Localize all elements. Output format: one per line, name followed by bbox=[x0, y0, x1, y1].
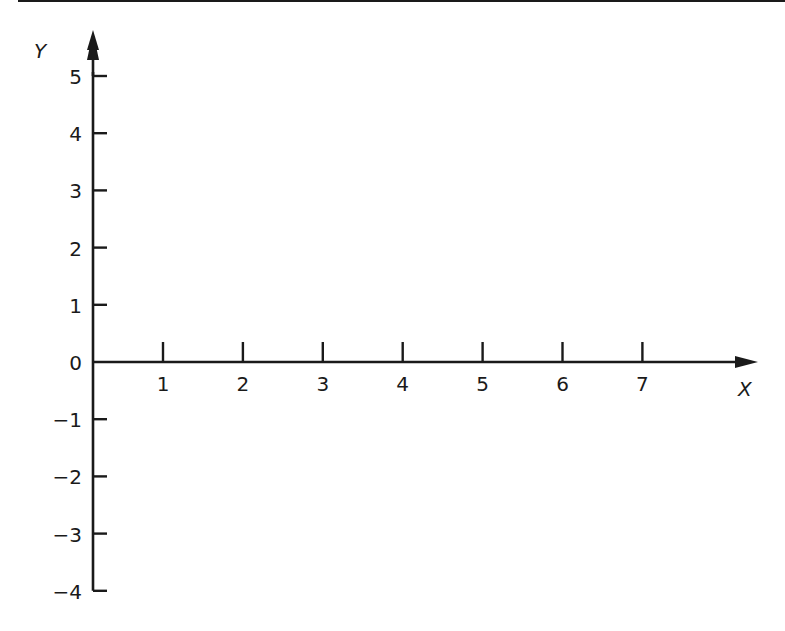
y-tick-label: −1 bbox=[53, 408, 82, 432]
y-tick-label: 5 bbox=[69, 65, 82, 89]
x-tick-label: 5 bbox=[476, 372, 489, 396]
axes bbox=[87, 30, 758, 591]
x-tick-label: 7 bbox=[636, 372, 649, 396]
x-tick-label: 1 bbox=[157, 372, 170, 396]
x-tick-label: 2 bbox=[237, 372, 250, 396]
y-tick-label: 0 bbox=[69, 351, 82, 375]
coordinate-axes-chart: 543210−1−2−3−4 1234567 Y X bbox=[0, 0, 785, 631]
y-tick-label: −2 bbox=[53, 465, 82, 489]
y-tick-label: 3 bbox=[69, 179, 82, 203]
y-tick-label: 4 bbox=[69, 122, 82, 146]
x-tick-label: 6 bbox=[556, 372, 569, 396]
y-tick-label: 2 bbox=[69, 237, 82, 261]
y-tick-label: −4 bbox=[53, 580, 82, 604]
x-tick-label: 4 bbox=[396, 372, 409, 396]
x-ticks: 1234567 bbox=[157, 342, 649, 396]
y-ticks: 543210−1−2−3−4 bbox=[53, 65, 107, 604]
y-tick-label: −3 bbox=[53, 523, 82, 547]
y-tick-label: 1 bbox=[69, 294, 82, 318]
x-tick-label: 3 bbox=[316, 372, 329, 396]
x-axis-arrow-icon bbox=[735, 356, 758, 368]
y-axis-label: Y bbox=[34, 39, 48, 63]
x-axis-label: X bbox=[737, 377, 753, 401]
